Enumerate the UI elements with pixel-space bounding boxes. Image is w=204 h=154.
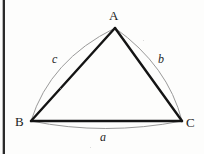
side-label-a: a: [100, 131, 106, 143]
chord-side-b: [115, 28, 182, 121]
side-label-c: c: [52, 53, 57, 65]
side-label-b: b: [158, 53, 164, 65]
vertex-label-a: A: [109, 9, 118, 22]
vertex-label-c: C: [186, 116, 195, 129]
chord-side-c: [31, 28, 115, 121]
scan-speck: [60, 88, 61, 89]
scan-speck: [143, 40, 144, 41]
scan-speck: [90, 147, 91, 148]
figure-canvas: A B C a b c: [0, 0, 204, 154]
vertex-label-b: B: [15, 115, 24, 128]
